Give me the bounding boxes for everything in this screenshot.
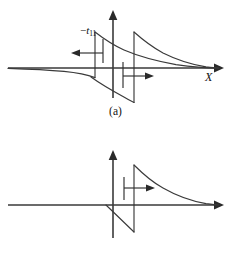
left-propagation-arrow-a [71,39,103,63]
y-axis-label-a: −t11 [80,24,96,38]
x-axis-b [8,201,224,210]
plot-panel-a: −t11 X (a) [0,0,231,130]
curve-left-pulse-lower-a [8,68,95,78]
curve-right-pulse-lower-b [106,205,134,232]
panel-caption-a: (a) [0,105,231,117]
y-axis-label-subscript-a: 11 [89,29,96,38]
plot-b-canvas [0,130,231,258]
y-axis-b [109,150,118,238]
curve-right-pulse-upper-a [134,32,219,68]
plot-panel-b: −t11 X (b) [0,130,231,258]
right-propagation-arrow-a [123,62,154,88]
x-axis-label-a: X [205,70,212,85]
x-axis-a [8,64,224,73]
y-axis-a [109,10,118,98]
right-propagation-arrow-b [124,177,155,200]
figure-root: −t11 X (a) [0,0,231,258]
